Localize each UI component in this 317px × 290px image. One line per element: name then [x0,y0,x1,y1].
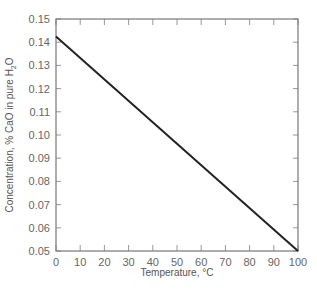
y-tick-label: 0.12 [29,83,50,95]
y-tick-label: 0.10 [29,129,50,141]
y-axis-ticks: 0.050.060.070.080.090.100.110.120.130.14… [29,13,298,257]
plot-frame [56,19,298,251]
y-tick-label: 0.08 [29,175,50,187]
x-axis-title: Temperature, °C [141,267,214,278]
y-tick-label: 0.15 [29,13,50,25]
x-axis-ticks: 0102030405060708090100 [53,19,307,268]
y-tick-label: 0.14 [29,36,50,48]
y-tick-label: 0.05 [29,245,50,257]
x-tick-label: 90 [268,256,280,268]
y-tick-label: 0.13 [29,59,50,71]
x-tick-label: 80 [243,256,255,268]
y-tick-label: 0.09 [29,152,50,164]
x-tick-label: 0 [53,256,59,268]
y-tick-label: 0.07 [29,199,50,211]
y-axis-title: Concentration, % CaO in pure H2O [4,57,17,212]
y-tick-label: 0.06 [29,222,50,234]
x-tick-label: 30 [122,256,134,268]
x-tick-label: 100 [289,256,307,268]
concentration-line [56,36,298,251]
y-tick-label: 0.11 [29,106,50,118]
x-tick-label: 20 [98,256,110,268]
chart: 0.050.060.070.080.090.100.110.120.130.14… [0,0,317,290]
x-tick-label: 70 [219,256,231,268]
x-tick-label: 10 [74,256,86,268]
